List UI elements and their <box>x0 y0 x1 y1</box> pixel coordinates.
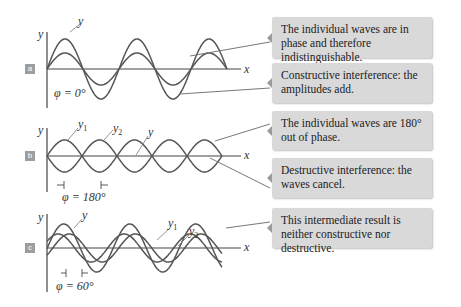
panel-b-wave-label-y1: y1 <box>78 117 87 133</box>
panel-a-x-axis-label: x <box>244 62 249 77</box>
panel-b-wave-label-y: y <box>148 125 153 140</box>
callout-destructive: Destructive interference: the waves canc… <box>272 158 432 198</box>
callout-intermediate: This intermediate result is neither cons… <box>272 208 432 248</box>
callout-out-of-phase: The individual waves are 180° out of pha… <box>272 111 432 150</box>
panel-a-badge: a <box>25 64 35 74</box>
panel-c-wave-label-y1: y1 <box>168 216 177 232</box>
panel-c-badge: c <box>25 243 35 253</box>
panel-c-y-axis-label: y <box>38 210 43 225</box>
callout-constructive: Constructive interference: the amplitude… <box>272 63 432 103</box>
panel-c-wave-label-y2: y2 <box>189 224 198 240</box>
panel-a-y-axis-label: y <box>38 27 43 42</box>
panel-c-wave-label-y: y <box>82 208 87 223</box>
panel-b-phase-label: φ = 180° <box>62 190 106 205</box>
panel-b-x-axis-label: x <box>244 148 249 163</box>
panel-b-badge: b <box>25 151 35 161</box>
panel-b-graph <box>47 124 270 192</box>
panel-a-phase-label: φ = 0° <box>54 86 86 101</box>
panel-c-phase-label: φ = 60° <box>56 279 94 294</box>
callout-in-phase: The individual waves are in phase and th… <box>272 17 432 58</box>
panel-a-wave-label-y: y <box>78 14 83 29</box>
panel-c-x-axis-label: x <box>244 240 249 255</box>
panel-b-y-axis-label: y <box>38 123 43 138</box>
panel-b-wave-label-y2: y2 <box>113 121 122 137</box>
